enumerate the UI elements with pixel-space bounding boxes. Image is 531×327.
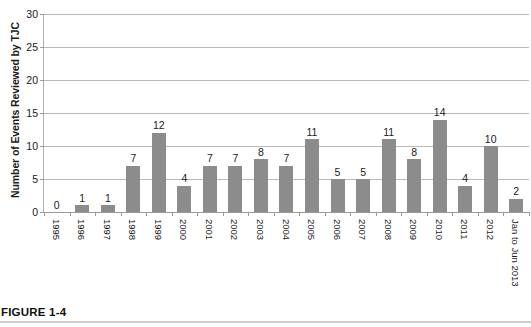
bar <box>433 120 447 212</box>
x-axis-tick-mark <box>529 212 530 216</box>
figure-container: Number of Events Reviewed by TJC 0510152… <box>0 0 531 327</box>
bar-slot: 7 <box>223 14 249 212</box>
x-axis-tick-label: 2009 <box>409 219 419 240</box>
bar-slot: 8 <box>401 14 427 212</box>
bar-chart: Number of Events Reviewed by TJC 0510152… <box>0 0 531 290</box>
x-axis-tick-mark <box>325 212 326 216</box>
bar-slot: 1 <box>95 14 121 212</box>
bar-value-label: 7 <box>130 153 136 164</box>
figure-caption-block: FIGURE 1-4 <box>0 306 531 323</box>
bar-slot: 5 <box>350 14 376 212</box>
x-axis-line <box>44 212 529 213</box>
bar-slot: 4 <box>172 14 198 212</box>
x-axis-tick-mark <box>95 212 96 216</box>
bar-value-label: 4 <box>181 173 187 184</box>
bar-value-label: 11 <box>383 127 394 138</box>
bar-slot: 0 <box>44 14 70 212</box>
bar-slot: 4 <box>452 14 478 212</box>
x-axis-tick-label: 2011 <box>460 219 470 239</box>
bar-value-label: 0 <box>54 200 60 211</box>
bar-slot: 7 <box>274 14 300 212</box>
x-axis-tick-label: 2006 <box>332 219 342 240</box>
x-axis-tick-label: 2002 <box>230 219 240 240</box>
bar-slot: 1 <box>70 14 96 212</box>
bar-slot: 11 <box>376 14 402 212</box>
y-axis-tick-label: 0 <box>16 207 38 218</box>
bar-slot: 12 <box>146 14 172 212</box>
x-axis-tick-mark <box>70 212 71 216</box>
bar-value-label: 7 <box>207 153 213 164</box>
caption-divider <box>0 321 531 323</box>
x-axis-tick-label: 2012 <box>485 219 495 240</box>
bar-slot: 7 <box>197 14 223 212</box>
x-axis-tick-mark <box>376 212 377 216</box>
bar <box>126 166 140 212</box>
bar-value-label: 12 <box>153 120 165 131</box>
bar-value-label: 14 <box>434 107 446 118</box>
bar <box>228 166 242 212</box>
x-axis-tick-mark <box>223 212 224 216</box>
bar <box>382 139 396 212</box>
x-axis-tick-label: 2000 <box>179 219 189 240</box>
bar-slot: 2 <box>503 14 529 212</box>
x-axis-tick-mark <box>503 212 504 216</box>
x-axis-tick-label: 2004 <box>281 219 291 240</box>
bar <box>75 205 89 212</box>
bar-value-label: 1 <box>79 193 85 204</box>
bar <box>458 186 472 212</box>
bar <box>484 146 498 212</box>
bar <box>152 133 166 212</box>
bar-value-label: 10 <box>485 134 497 145</box>
y-axis-tick-label: 25 <box>16 42 38 53</box>
bar-value-label: 1 <box>105 193 111 204</box>
x-axis-tick-mark <box>350 212 351 216</box>
bar-value-label: 11 <box>307 127 318 138</box>
x-axis-tick-mark <box>299 212 300 216</box>
x-axis-tick-mark <box>274 212 275 216</box>
x-axis-tick-mark <box>427 212 428 216</box>
x-axis-tick-label: 2008 <box>383 219 393 240</box>
bar <box>177 186 191 212</box>
x-axis-tick-mark <box>452 212 453 216</box>
x-axis-tick-label: 1995 <box>51 219 61 240</box>
x-axis-tick-label: 2003 <box>255 219 265 240</box>
bar-slot: 11 <box>299 14 325 212</box>
y-axis-tick-label: 30 <box>16 9 38 20</box>
bar <box>279 166 293 212</box>
y-axis-tick-label: 15 <box>16 108 38 119</box>
x-axis-tick-label: 2010 <box>434 219 444 240</box>
bar-slot: 5 <box>325 14 351 212</box>
bar <box>254 159 268 212</box>
bar-slot: 14 <box>427 14 453 212</box>
bar-value-label: 4 <box>462 173 468 184</box>
bar <box>356 179 370 212</box>
x-axis-tick-mark <box>121 212 122 216</box>
bar <box>407 159 421 212</box>
y-axis-tick-label: 5 <box>16 174 38 185</box>
bar <box>101 205 115 212</box>
figure-caption-label: FIGURE 1-4 <box>0 306 531 318</box>
bar-value-label: 7 <box>233 153 239 164</box>
x-axis-tick-label: 2001 <box>204 219 214 240</box>
x-axis-tick-mark <box>248 212 249 216</box>
bar <box>203 166 217 212</box>
x-axis-tick-label: Jan to Jun 2013 <box>511 219 521 287</box>
plot-area: 011712477871155118144102 <box>44 14 529 212</box>
x-axis-tick-label: 1996 <box>77 219 87 240</box>
bar-value-label: 5 <box>360 167 366 178</box>
x-axis-tick-label: 1997 <box>102 219 112 240</box>
bar-value-label: 5 <box>335 167 341 178</box>
x-axis-tick-label: 1998 <box>128 219 138 240</box>
x-axis-tick-mark <box>401 212 402 216</box>
bar-value-label: 2 <box>513 186 519 197</box>
x-axis-tick-mark <box>44 212 45 216</box>
x-axis-tick-label: 1999 <box>153 219 163 240</box>
bar <box>509 199 523 212</box>
bar-slot: 10 <box>478 14 504 212</box>
bar-value-label: 7 <box>284 153 290 164</box>
y-axis-tick-label: 10 <box>16 141 38 152</box>
bar <box>331 179 345 212</box>
x-axis-tick-mark <box>146 212 147 216</box>
bar-series: 011712477871155118144102 <box>44 14 529 212</box>
y-axis-tick-label: 20 <box>16 75 38 86</box>
